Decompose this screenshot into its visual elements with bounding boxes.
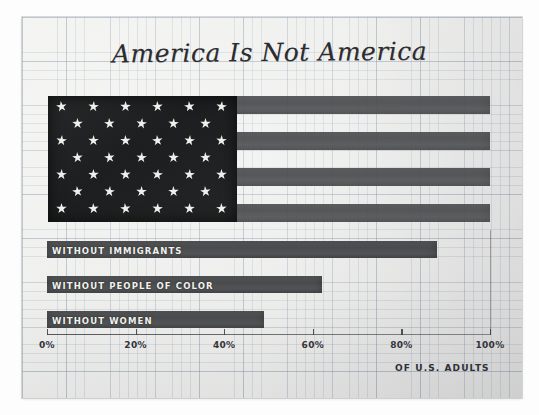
axis-tick: [313, 329, 314, 335]
flag-star: [71, 185, 83, 197]
flag-star: [200, 152, 212, 164]
flag-star: [55, 100, 67, 112]
axis-tick: [47, 329, 48, 335]
axis-caption: OF U.S. ADULTS: [395, 363, 490, 373]
x-axis-line: [47, 334, 491, 335]
axis-tick-label: 100%: [475, 340, 504, 350]
flag-star: [136, 186, 147, 197]
flag-star: [168, 118, 180, 130]
flag-star: [55, 134, 67, 146]
axis-tick-label: 80%: [390, 340, 412, 350]
flag-canton: [48, 96, 237, 222]
flag-star: [151, 134, 163, 146]
flag-star: [56, 169, 68, 181]
flag-star: [184, 203, 195, 214]
flag-star: [119, 202, 131, 214]
flag-star: [88, 101, 100, 113]
axis-tick-label: 0%: [39, 340, 55, 350]
axis-right-rule: [490, 230, 491, 335]
flag-star: [72, 152, 84, 164]
us-flag-reference-bar: [48, 96, 490, 222]
axis-tick-label: 40%: [213, 340, 235, 350]
flag-star: [135, 117, 147, 129]
flag-star: [184, 169, 196, 181]
flag-star: [88, 169, 99, 180]
flag-star: [88, 203, 100, 215]
flag-star: [103, 185, 115, 197]
flag-star: [151, 168, 163, 180]
bar-label: WITHOUT PEOPLE OF COLOR: [52, 281, 214, 291]
axis-tick: [490, 329, 491, 335]
axis-tick-label: 60%: [302, 340, 324, 350]
axis-tick: [136, 329, 137, 335]
flag-star: [215, 100, 227, 112]
bar-label: WITHOUT WOMEN: [52, 316, 153, 326]
flag-star: [183, 100, 195, 112]
flag-star: [88, 135, 99, 146]
axis-tick: [401, 329, 402, 335]
flag-star: [216, 135, 228, 147]
flag-star: [72, 118, 83, 129]
bar-label: WITHOUT IMMIGRANTS: [52, 246, 183, 256]
page-title: America Is Not America: [0, 36, 539, 70]
flag-star: [120, 135, 131, 146]
flag-star: [216, 203, 228, 215]
flag-star: [216, 169, 227, 180]
flag-star: [104, 118, 116, 130]
flag-star: [56, 203, 67, 214]
axis-tick: [224, 329, 225, 335]
flag-star: [168, 186, 179, 197]
flag-star: [136, 152, 148, 164]
flag-star: [120, 101, 131, 112]
flag-star: [168, 152, 179, 163]
flag-star: [199, 185, 211, 197]
axis-tick-label: 20%: [124, 340, 146, 350]
flag-star: [103, 151, 115, 163]
flag-star: [183, 134, 195, 146]
flag-star: [200, 118, 211, 129]
flag-star: [152, 203, 164, 215]
flag-star: [152, 101, 164, 113]
flag-star: [120, 169, 132, 181]
screenshot-canvas: America Is Not America WITHOUT IMMIGRANT…: [0, 0, 539, 415]
